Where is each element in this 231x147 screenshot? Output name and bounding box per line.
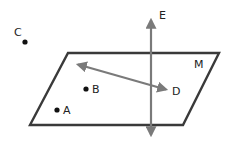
label-m: M: [194, 58, 204, 71]
label-d: D: [172, 85, 180, 98]
point-b: [83, 86, 88, 91]
point-c: [22, 39, 27, 44]
label-e: E: [159, 9, 166, 22]
geometry-diagram: C B A D E M: [0, 0, 231, 147]
label-c: C: [14, 26, 22, 39]
label-a: A: [63, 104, 71, 117]
plane-m: [30, 53, 219, 125]
point-a: [54, 107, 59, 112]
label-b: B: [92, 83, 100, 96]
